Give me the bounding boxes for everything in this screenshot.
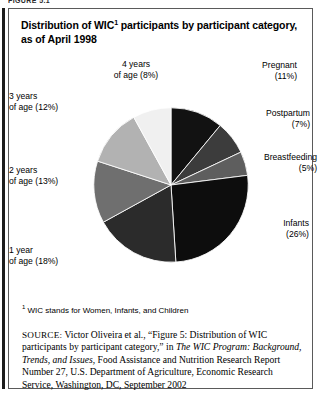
pie-svg [93, 107, 249, 263]
slice-label-2-years-of-age: 2 years of age (13%) [9, 165, 89, 186]
figure-box: Distribution of WIC1 participants by par… [8, 8, 313, 389]
footnote: 1 WIC stands for Women, Infants, and Chi… [22, 305, 307, 316]
pie-chart: 4 years of age (8%) Pregnant (11%) 3 yea… [9, 55, 314, 295]
source-citation: SOURCE: Victor Oliveira et al., “Figure … [22, 329, 305, 391]
pie-slice-group [94, 108, 248, 262]
footnote-text: WIC stands for Women, Infants, and Child… [25, 306, 188, 315]
slice-label-1-year-of-age: 1 year of age (18%) [9, 245, 93, 266]
pie-graphic [93, 107, 249, 263]
slice-label-pregnant: Pregnant (11%) [187, 60, 297, 81]
title-text-before: Distribution of WIC [21, 19, 114, 31]
figure-number-runninghead: FIGURE 5.1 [8, 0, 50, 3]
slice-label-3-years-of-age: 3 years of age (12%) [9, 91, 91, 112]
source-kicker: SOURCE: [22, 330, 62, 340]
slice-label-infants: Infants (26%) [217, 218, 309, 239]
slice-label-postpartum: Postpartum (7%) [205, 108, 310, 129]
left-rule-divider [2, 8, 5, 389]
slice-label-4-years-of-age: 4 years of age (8%) [93, 59, 179, 80]
slice-label-breastfeeding: Breastfeeding (5%) [225, 152, 317, 173]
page-title: Distribution of WIC1 participants by par… [21, 19, 301, 46]
